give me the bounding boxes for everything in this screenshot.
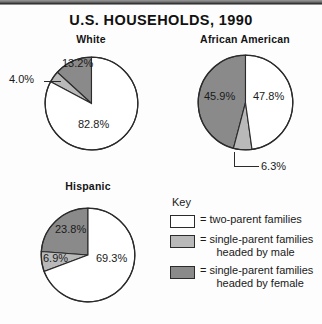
key-legend: Key = two-parent families = single-paren… xyxy=(170,196,322,290)
pie-aa-label-female: 45.9% xyxy=(204,90,235,102)
pie-african-american-svg xyxy=(197,54,294,151)
key-label-female-line2: headed by female xyxy=(209,277,313,290)
pie-hispanic-label-male: 6.9% xyxy=(43,252,68,264)
pie-aa-leader-male-horizontal xyxy=(234,166,259,167)
pie-title-african-american: African American xyxy=(190,33,300,45)
key-equals-2: = xyxy=(200,233,206,246)
single-parent-male-swatch xyxy=(170,235,195,248)
key-label-single-parent-female: single-parent families headed by female xyxy=(209,264,313,290)
pie-aa-label-male: 6.3% xyxy=(261,160,286,172)
pie-white-label-female: 13.2% xyxy=(62,57,93,69)
pie-title-white: White xyxy=(41,33,141,45)
two-parent-swatch xyxy=(170,215,195,228)
key-item-two-parent: = two-parent families xyxy=(170,213,322,228)
pie-slice xyxy=(246,55,293,149)
figure-container: U.S. HOUSEHOLDS, 1990 White 13.2% 4.0% 8… xyxy=(0,0,322,324)
key-label-two-parent: two-parent families xyxy=(209,213,301,226)
pie-aa-leader-male-vertical xyxy=(234,152,235,167)
pie-white-label-two-parent: 82.8% xyxy=(78,118,109,130)
pie-white-leader-male xyxy=(44,81,61,82)
key-label-male-line2: headed by male xyxy=(209,246,313,259)
key-label-single-parent-male: single-parent families headed by male xyxy=(209,233,313,259)
key-label-two-parent-line1: two-parent families xyxy=(209,213,301,225)
pie-white-label-male: 4.0% xyxy=(9,73,34,85)
pie-white-svg xyxy=(44,56,139,151)
single-parent-female-swatch xyxy=(170,266,195,279)
pie-hispanic-label-two-parent: 69.3% xyxy=(96,252,127,264)
key-label-female-line1: single-parent families xyxy=(209,264,313,276)
pie-chart-african-american xyxy=(197,54,294,151)
key-heading: Key xyxy=(172,196,322,208)
key-equals-3: = xyxy=(200,264,206,277)
key-item-single-parent-female: = single-parent families headed by femal… xyxy=(170,264,322,290)
key-label-male-line1: single-parent families xyxy=(209,233,313,245)
figure-title: U.S. HOUSEHOLDS, 1990 xyxy=(0,12,322,28)
pie-hispanic-label-female: 23.8% xyxy=(55,223,86,235)
pie-chart-white xyxy=(44,56,139,151)
pie-title-hispanic: Hispanic xyxy=(38,180,138,192)
key-equals-1: = xyxy=(200,213,206,226)
pie-aa-label-two-parent: 47.8% xyxy=(253,90,284,102)
page-top-rule xyxy=(0,0,322,5)
key-item-single-parent-male: = single-parent families headed by male xyxy=(170,233,322,259)
